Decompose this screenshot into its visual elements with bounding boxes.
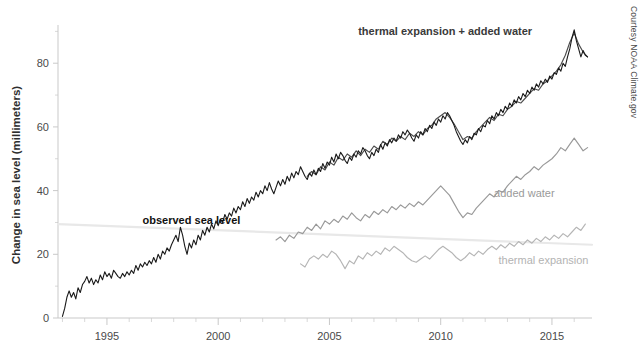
y-tick-label: 80 bbox=[37, 57, 49, 69]
x-tick-label: 2000 bbox=[206, 330, 230, 342]
x-axis-ticks: 19952000200520102015 bbox=[62, 318, 574, 342]
series-annotation: thermal expansion + added water bbox=[358, 25, 533, 37]
series-group bbox=[62, 30, 587, 317]
x-tick-label: 1995 bbox=[95, 330, 119, 342]
x-tick-label: 2005 bbox=[317, 330, 341, 342]
series-annotation: added water bbox=[494, 187, 555, 199]
chart-canvas: Change in sea level (millimeters) 020406… bbox=[0, 0, 640, 352]
y-axis-title: Change in sea level (millimeters) bbox=[10, 86, 22, 264]
x-tick-label: 2015 bbox=[540, 330, 564, 342]
y-tick-label: 60 bbox=[37, 121, 49, 133]
series-annotation: thermal expansion bbox=[499, 254, 589, 266]
series-line bbox=[62, 30, 587, 317]
credit-text: Courtesy NOAA Climate.gov bbox=[629, 6, 639, 118]
y-axis-ticks: 020406080 bbox=[37, 31, 58, 324]
y-tick-label: 40 bbox=[37, 185, 49, 197]
y-tick-label: 0 bbox=[43, 312, 49, 324]
series-line bbox=[307, 33, 587, 176]
trend-guide-line bbox=[58, 224, 592, 245]
series-annotation: observed sea level bbox=[143, 214, 241, 226]
sea-level-chart: Change in sea level (millimeters) 020406… bbox=[0, 0, 640, 352]
x-tick-label: 2010 bbox=[428, 330, 452, 342]
y-tick-label: 20 bbox=[37, 248, 49, 260]
